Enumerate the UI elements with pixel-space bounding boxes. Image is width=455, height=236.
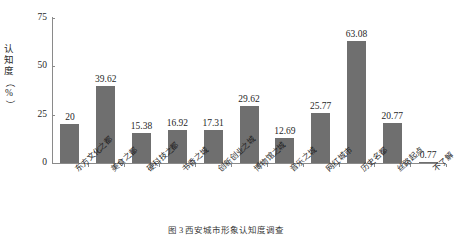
bar-value-label: 17.31 <box>191 118 235 128</box>
y-axis-title-unit-close: ） <box>4 98 15 112</box>
bar-value-label: 29.62 <box>227 94 271 104</box>
y-tick-label: 25 <box>25 110 47 120</box>
bar <box>60 124 79 163</box>
bar-value-label: 63.08 <box>334 29 378 39</box>
y-axis-title: 认 知 度 （ % ） <box>2 44 16 110</box>
bar-value-label: 20 <box>48 112 92 122</box>
y-axis-title-char-2: 知 <box>2 55 16 66</box>
bar-value-label: 39.62 <box>84 74 128 84</box>
bar <box>204 130 223 163</box>
bar-value-label: 12.69 <box>263 126 307 136</box>
bar-value-label: 25.77 <box>299 101 343 111</box>
y-tick-label: 75 <box>25 13 47 23</box>
bar <box>383 123 402 163</box>
y-tick-mark <box>52 18 55 19</box>
y-tick-label: 0 <box>25 158 47 168</box>
figure-caption: 图 3 西安城市形象认知度调查 <box>0 225 452 235</box>
y-axis-title-unit-open: （ <box>4 76 15 90</box>
y-axis-title-char-1: 认 <box>2 44 16 55</box>
y-axis-line <box>52 17 53 164</box>
bar <box>347 41 366 163</box>
y-tick-label: 50 <box>25 61 47 71</box>
y-tick-mark <box>52 66 55 67</box>
y-tick-mark <box>52 163 55 164</box>
bar-value-label: 20.77 <box>370 111 414 121</box>
